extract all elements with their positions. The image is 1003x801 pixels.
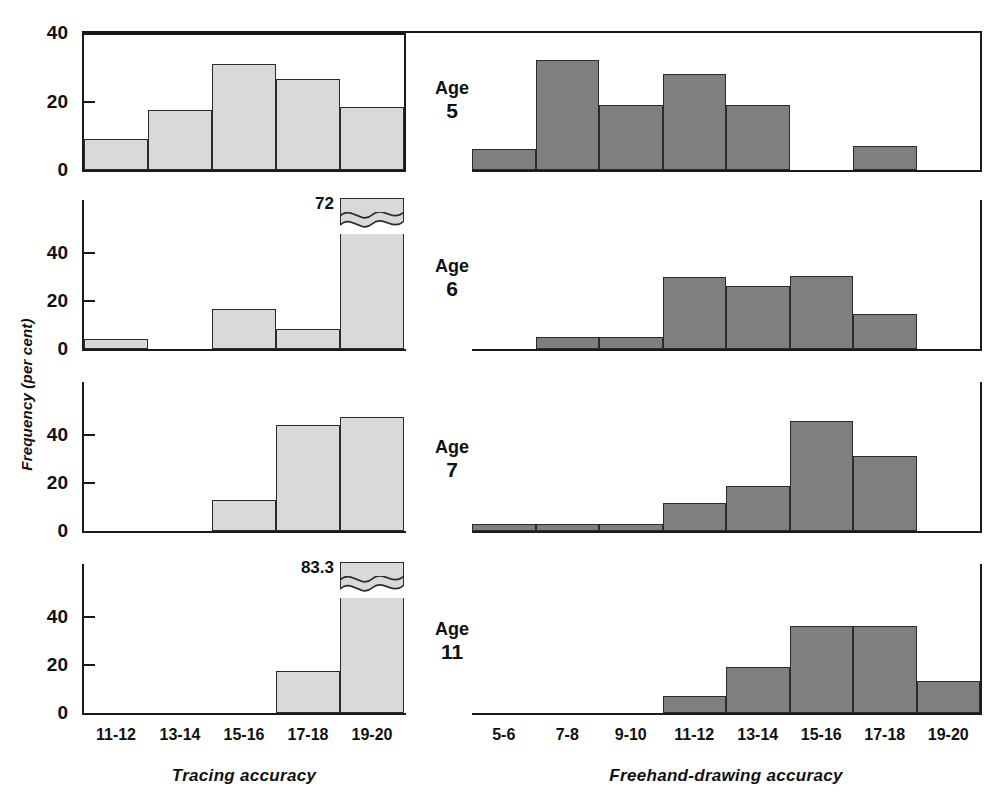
bar-freehand-row3-bin4 [663,503,727,531]
left-x-ticklabel-17-18: 17-18 [273,726,343,744]
left-y-ticklabel-row3-20: 20 [24,473,68,492]
left-y-ticklabel-row4-40: 40 [24,607,68,626]
right-frame-right-row4 [980,564,982,713]
age-label-row4: Age11 [412,619,492,664]
bar-freehand-row3-bin3 [599,524,663,531]
bar-tracing-row1-bin4 [276,79,340,170]
right-x-axis-title: Freehand-drawing accuracy [452,766,1000,786]
bar-value-label-row4: 83.3 [278,558,334,578]
left-y-tick-row3-40 [82,434,95,436]
bar-tracing-row2-bin5 [340,198,404,349]
bar-freehand-row3-bin5 [726,486,790,531]
bar-freehand-row3-bin7 [853,456,917,531]
bar-freehand-row1-bin1 [472,149,536,170]
bar-tracing-row1-bin2 [148,110,212,170]
bar-tracing-row1-bin1 [84,139,148,170]
left-y-ticklabel-row1-0: 0 [24,160,68,179]
left-y-ticklabel-row4-0: 0 [24,703,68,722]
age-label-row3: Age7 [412,437,492,482]
left-frame-top-row1 [82,33,406,35]
left-y-ticklabel-row4-20: 20 [24,655,68,674]
right-x-ticklabel-9-10: 9-10 [596,726,666,744]
bar-freehand-row2-bin3 [599,337,663,349]
bar-freehand-row1-bin3 [599,105,663,170]
left-x-axis-row1 [82,170,406,172]
left-y-tick-row2-20 [82,300,95,302]
bar-tracing-row3-bin5 [340,417,404,532]
left-y-ticklabel-row2-20: 20 [24,291,68,310]
right-x-ticklabel-17-18: 17-18 [850,726,920,744]
left-y-tick-row3-20 [82,482,95,484]
age-label-word: Age [412,78,492,99]
right-x-axis-row4 [472,713,982,715]
left-y-ticklabel-row1-20: 20 [24,92,68,111]
bar-freehand-row2-bin2 [536,337,600,349]
right-frame-right-row2 [980,200,982,349]
bar-tracing-row3-bin4 [276,425,340,531]
right-x-ticklabel-15-16: 15-16 [786,726,856,744]
left-y-ticklabel-row2-40: 40 [24,243,68,262]
bar-tracing-row4-bin4 [276,671,340,713]
age-label-word: Age [412,619,492,640]
left-x-ticklabel-13-14: 13-14 [145,726,215,744]
right-x-axis-row1 [472,170,982,172]
bar-tracing-row1-bin3 [212,64,276,170]
right-x-ticklabel-13-14: 13-14 [723,726,793,744]
top-frame-full-row1 [82,31,982,33]
left-x-ticklabel-19-20: 19-20 [337,726,407,744]
bar-freehand-row4-bin4 [663,696,727,713]
bar-value-label-row2: 72 [278,194,334,214]
right-x-ticklabel-19-20: 19-20 [913,726,983,744]
right-frame-right-row3 [980,382,982,531]
bar-freehand-row4-bin6 [790,626,854,713]
bar-tracing-row3-bin3 [212,500,276,531]
bar-freehand-row4-bin7 [853,626,917,713]
left-y-axis-row3 [82,382,84,531]
bar-tracing-row1-bin5 [340,107,404,170]
bar-freehand-row2-bin5 [726,286,790,349]
age-label-number: 6 [412,277,492,301]
left-y-ticklabel-row3-40: 40 [24,425,68,444]
right-x-axis-row2 [472,349,982,351]
left-y-axis-row2 [82,200,84,349]
bar-freehand-row4-bin8 [917,681,981,714]
bar-freehand-row1-bin4 [663,74,727,170]
bar-freehand-row3-bin6 [790,421,854,531]
left-y-axis-row4 [82,564,84,713]
age-label-number: 11 [412,640,492,664]
age-label-row2: Age6 [412,256,492,301]
left-x-axis-title: Tracing accuracy [64,766,424,786]
left-x-ticklabel-11-12: 11-12 [81,726,151,744]
left-x-axis-row3 [82,531,406,533]
bar-freehand-row4-bin5 [726,667,790,713]
bar-tracing-row2-bin3 [212,309,276,349]
right-x-ticklabel-11-12: 11-12 [659,726,729,744]
left-y-tick-row2-40 [82,252,95,254]
left-y-tick-row4-20 [82,664,95,666]
figure-histogram-grid: Frequency (per cent) 02040Age50204072Age… [0,0,1003,801]
bar-freehand-row3-bin1 [472,524,536,531]
bar-tracing-row2-bin1 [84,339,148,349]
bar-tracing-row2-bin4 [276,329,340,350]
right-frame-right-row1 [980,33,982,170]
left-y-tick-row1-20 [82,101,95,103]
left-y-tick-row4-40 [82,616,95,618]
right-x-axis-row3 [472,531,982,533]
bar-freehand-row1-bin5 [726,105,790,170]
age-label-word: Age [412,256,492,277]
bar-freehand-row1-bin2 [536,60,600,170]
left-x-axis-row2 [82,349,406,351]
left-y-ticklabel-row2-0: 0 [24,339,68,358]
age-label-number: 5 [412,99,492,123]
left-frame-right-row1 [404,33,406,170]
age-label-word: Age [412,437,492,458]
bar-freehand-row2-bin6 [790,276,854,350]
left-x-axis-row4 [82,713,406,715]
right-x-ticklabel-7-8: 7-8 [532,726,602,744]
left-y-ticklabel-row1-40: 40 [24,23,68,42]
age-label-row1: Age5 [412,78,492,123]
left-y-ticklabel-row3-0: 0 [24,521,68,540]
age-label-number: 7 [412,458,492,482]
bar-tracing-row4-bin5 [340,562,404,713]
left-x-ticklabel-15-16: 15-16 [209,726,279,744]
